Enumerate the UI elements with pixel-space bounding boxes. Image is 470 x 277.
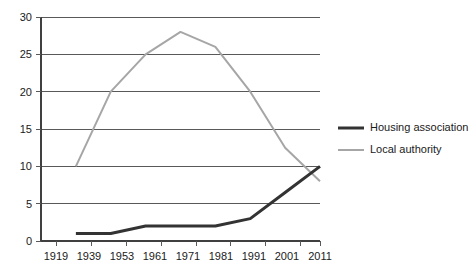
x-tick-label-1953: 1953 bbox=[110, 250, 134, 262]
x-tick-label-1991: 1991 bbox=[242, 250, 266, 262]
x-tick-labels: 1919 1939 1953 1961 1971 1981 1991 2001 … bbox=[44, 250, 332, 262]
y-tick-label-0: 0 bbox=[26, 235, 32, 247]
x-tick-label-1961: 1961 bbox=[143, 250, 167, 262]
legend-label-local-authority: Local authority bbox=[370, 143, 442, 155]
line-chart: 30 25 20 15 10 5 0 1919 1939 1953 1961 bbox=[0, 0, 470, 277]
x-tick-label-1981: 1981 bbox=[209, 250, 233, 262]
y-tick-label-20: 20 bbox=[20, 86, 32, 98]
chart-background bbox=[0, 0, 470, 277]
x-tick-label-1939: 1939 bbox=[77, 250, 101, 262]
y-tick-label-10: 10 bbox=[20, 160, 32, 172]
x-tick-label-1971: 1971 bbox=[176, 250, 200, 262]
y-tick-label-15: 15 bbox=[20, 123, 32, 135]
legend-label-housing-association: Housing association bbox=[370, 121, 468, 133]
y-tick-label-25: 25 bbox=[20, 48, 32, 60]
x-tick-label-1919: 1919 bbox=[44, 250, 68, 262]
y-tick-label-5: 5 bbox=[26, 198, 32, 210]
x-tick-label-2011: 2011 bbox=[308, 250, 332, 262]
y-tick-label-30: 30 bbox=[20, 11, 32, 23]
chart-container: 30 25 20 15 10 5 0 1919 1939 1953 1961 bbox=[0, 0, 470, 277]
x-tick-label-2001: 2001 bbox=[275, 250, 299, 262]
